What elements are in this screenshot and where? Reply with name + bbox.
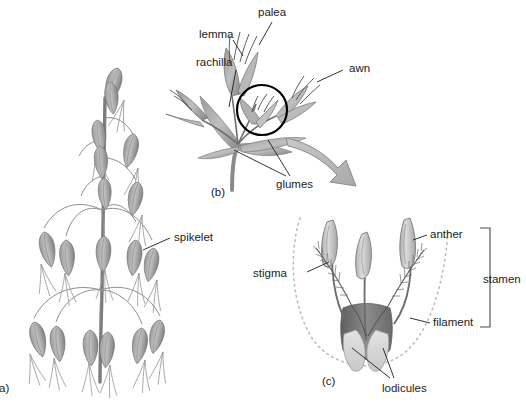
label-spikelet: spikelet <box>174 231 214 243</box>
label-stigma: stigma <box>253 267 287 279</box>
label-glumes: glumes <box>276 178 313 190</box>
label-filament: filament <box>433 316 474 328</box>
panel-label-b: (b) <box>211 186 225 198</box>
canvas-background <box>0 0 526 405</box>
label-anther: anther <box>430 228 463 240</box>
label-lodicules: lodicules <box>382 382 427 394</box>
panel-label-c: (c) <box>322 375 336 387</box>
label-awn: awn <box>349 62 370 74</box>
label-stamen: stamen <box>483 273 521 285</box>
figure-canvas: spikelet a) <box>0 0 526 405</box>
label-rachilla: rachilla <box>196 56 233 68</box>
label-palea: palea <box>258 6 287 18</box>
panel-label-a: a) <box>0 382 9 394</box>
botanical-figure: spikelet a) <box>0 0 526 405</box>
label-lemma: lemma <box>199 28 234 40</box>
